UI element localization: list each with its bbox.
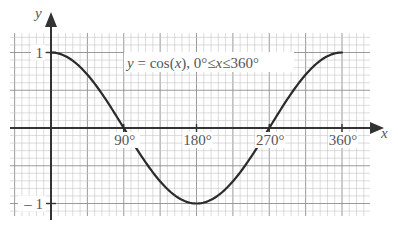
axes bbox=[10, 12, 384, 220]
x-tick-label: 180° bbox=[183, 132, 212, 148]
y-tick-label: 1 bbox=[36, 45, 44, 61]
x-tick-label: 360° bbox=[329, 132, 358, 148]
x-tick-label: 270° bbox=[256, 132, 285, 148]
y-tick-label: – 1 bbox=[23, 196, 43, 212]
y-axis-label: y bbox=[33, 5, 42, 21]
y-axis-arrow-icon bbox=[45, 12, 57, 27]
cosine-chart: 90°180°270°360°1– 1 y = cos(x), 0°≤x≤360… bbox=[0, 0, 398, 225]
equation-label: y = cos(x), 0°≤x≤360° bbox=[125, 55, 259, 72]
x-axis-label: x bbox=[380, 125, 388, 141]
x-tick-label: 90° bbox=[114, 132, 135, 148]
